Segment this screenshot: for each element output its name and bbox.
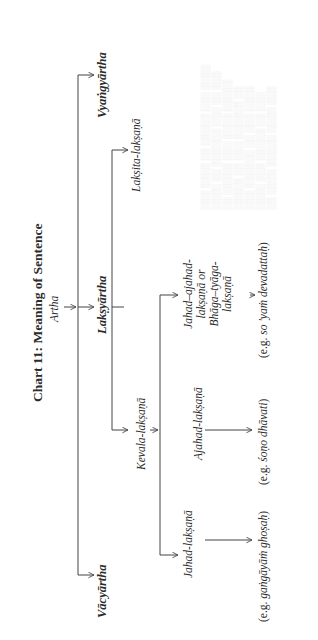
node-kevala-laksana: Kevala-lakṣaṇā — [135, 398, 148, 470]
example-jahad-suffix: ) — [257, 511, 269, 515]
example-jahad-ajahad-text: so 'yaṁ devadattaḥ — [257, 246, 269, 335]
node-vacyartha: Vācyārtha — [96, 565, 109, 618]
example-ajahad-text: śoṇo dhāvati — [257, 403, 269, 462]
node-ajahad-laksana: Ajahad-lakṣaṇā — [192, 387, 205, 460]
example-jahad-ajahad-prefix: (e.g. — [257, 335, 269, 358]
example-jahad-prefix: (e.g. — [257, 599, 269, 622]
rotated-chart-page: ░░░ ░░░░ ░░ ░░░░░ ░░░ ░░░░░░░░ ░░ ░░░░░░… — [0, 0, 318, 640]
example-ajahad-prefix: (e.g. — [257, 462, 269, 485]
node-artha: Artha — [48, 296, 61, 322]
jahad-ajahad-line-4: lakṣaṇā — [221, 248, 234, 340]
jahad-ajahad-line-1: Jahad–ajahad- — [182, 248, 195, 340]
example-jahad-ajahad: (e.g. so 'yaṁ devadattaḥ) — [257, 242, 269, 358]
node-vyangyartha: Vyaṅgyārtha — [96, 52, 109, 118]
node-laksyartha: Lakṣyārtha — [96, 276, 109, 334]
example-ajahad-suffix: ) — [257, 399, 269, 403]
example-jahad: (e.g. gaṅgāyāṁ ghoṣaḥ) — [257, 511, 269, 622]
example-jahad-ajahad-suffix: ) — [257, 242, 269, 246]
example-jahad-text: gaṅgāyāṁ ghoṣaḥ — [257, 515, 269, 599]
chart-title: Chart 11: Meaning of Sentence — [30, 224, 46, 402]
node-laksita-laksana: Lakṣita-lakṣaṇā — [130, 119, 143, 192]
node-jahad-ajahad-laksana: Jahad–ajahad- lakṣaṇā or Bhāga–tyāga- la… — [182, 248, 234, 340]
node-jahad-laksana: Jahad-lakṣaṇā — [182, 510, 195, 578]
jahad-ajahad-line-3: Bhāga–tyāga- — [208, 248, 221, 340]
jahad-ajahad-line-2: lakṣaṇā or — [195, 248, 208, 340]
example-ajahad: (e.g. śoṇo dhāvati) — [257, 399, 269, 485]
